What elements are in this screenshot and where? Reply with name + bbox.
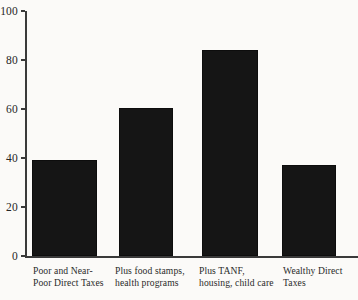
y-axis-tick-label: 100 xyxy=(0,3,18,19)
bar-chart-figure: 100806040200 Poor and Near- Poor Direct … xyxy=(0,0,358,300)
bar-4 xyxy=(282,165,336,256)
y-axis-tick-label: 60 xyxy=(6,101,18,117)
x-axis-label-4: Wealthy Direct Taxes xyxy=(283,265,343,289)
x-axis-line xyxy=(25,256,358,258)
x-axis-label-2: Plus food stamps, health programs xyxy=(115,265,185,289)
y-axis-tick-label: 80 xyxy=(6,52,18,68)
x-axis-label-1: Poor and Near- Poor Direct Taxes xyxy=(33,265,104,289)
y-axis-tick-label: 0 xyxy=(12,248,18,264)
bar-2 xyxy=(119,108,173,256)
bar-3 xyxy=(202,50,258,256)
y-axis-tick-label: 40 xyxy=(6,150,18,166)
bar-1 xyxy=(32,160,97,256)
y-axis-tick-label: 20 xyxy=(6,199,18,215)
plot-area xyxy=(25,11,358,256)
x-axis-label-3: Plus TANF, housing, child care xyxy=(199,265,274,289)
